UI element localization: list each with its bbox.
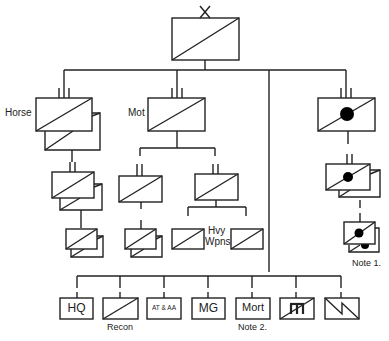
armored-troop	[344, 222, 379, 252]
regiment-echelon-icon	[59, 88, 69, 98]
armored-squadron	[326, 154, 380, 222]
armor-dot-icon	[340, 107, 354, 121]
horse-regiment	[36, 70, 100, 162]
signal-lightning-icon	[325, 298, 359, 319]
hvy-label: Hvy	[208, 226, 225, 236]
horse-troop	[66, 229, 103, 257]
signal-unit	[325, 298, 359, 319]
org-chart	[0, 0, 389, 341]
armored-regiment	[318, 70, 375, 144]
horse-squadron	[52, 162, 102, 228]
recon-caption: Recon	[107, 323, 133, 332]
note2-caption: Note 2.	[238, 323, 267, 332]
note1-label: Note 1.	[352, 259, 381, 268]
horse-label: Horse	[5, 108, 32, 118]
mot-regiment	[140, 70, 215, 156]
hvy-wpns-troop-2	[231, 229, 263, 249]
mort-label: Mort	[236, 302, 270, 313]
brigade-echelon-icon	[200, 6, 210, 18]
engineer-icon	[290, 304, 304, 314]
wpns-label: Wpns	[205, 237, 231, 247]
mg-label: MG	[192, 302, 225, 314]
support-drops	[77, 276, 341, 298]
engineer-unit	[280, 298, 314, 319]
top-unit-brigade	[172, 6, 239, 70]
hq-label: HQ	[60, 302, 93, 314]
mot-troop	[125, 229, 162, 257]
mot-label: Mot	[128, 108, 145, 118]
mot-squadron-1	[119, 164, 162, 229]
mot-squadron-2	[188, 164, 246, 216]
at-aa-label: AT & AA	[147, 305, 181, 312]
hvy-wpns-troop-1	[172, 229, 204, 249]
recon-unit	[103, 298, 138, 319]
